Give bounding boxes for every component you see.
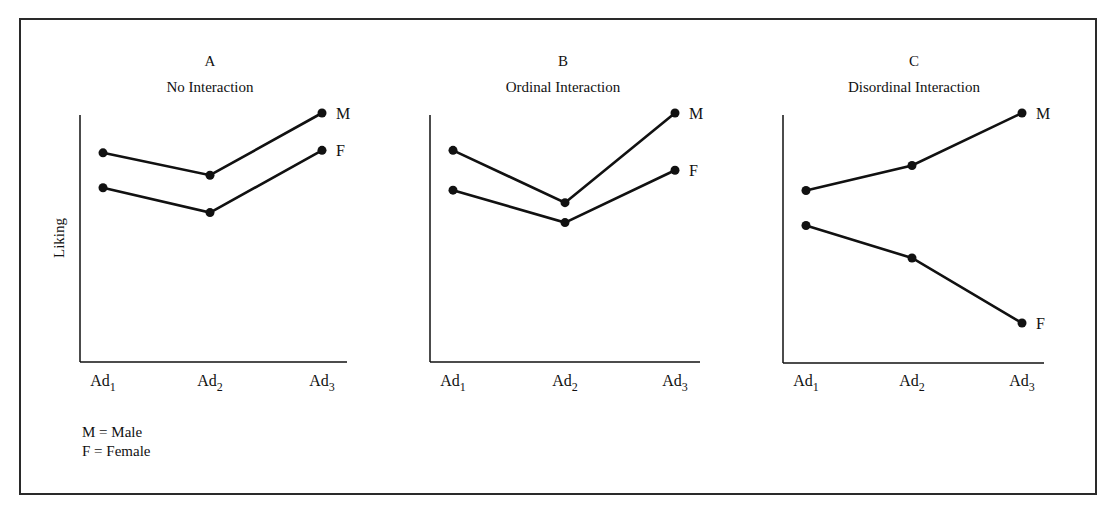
panel-b-series-m-label: M <box>689 105 703 122</box>
panel-c-series-m-label: M <box>1036 105 1050 122</box>
panel-b-series-m-line <box>453 113 675 203</box>
panel-a-x-tick-label: Ad2 <box>197 372 223 394</box>
panel-a-series-f-point <box>206 208 215 217</box>
legend-entry-male: M = Male <box>82 423 150 442</box>
panel-a-series-m-point <box>99 148 108 157</box>
panel-b-series-f-point <box>671 166 680 175</box>
panel-b-letter: B <box>558 53 568 69</box>
panel-a-series-m-point <box>318 109 327 118</box>
legend: M = Male F = Female <box>82 423 150 461</box>
panel-c-series-f-point <box>802 221 811 230</box>
panel-a-x-tick-label: Ad1 <box>90 372 116 394</box>
panel-b-x-tick-label: Ad3 <box>662 372 688 394</box>
panel-c-x-tick-label: Ad1 <box>793 372 819 394</box>
legend-entry-female: F = Female <box>82 442 150 461</box>
panel-b-title: Ordinal Interaction <box>506 79 621 95</box>
panel-c-x-tick-label: Ad2 <box>899 372 925 394</box>
panel-a-series-f-point <box>99 183 108 192</box>
panel-c-series-m-point <box>1018 109 1027 118</box>
panel-a-series-m-label: M <box>336 105 350 122</box>
panel-c-series-f-line <box>806 226 1022 324</box>
interaction-charts: ANo InteractionLikingAd1Ad2Ad3MFBOrdinal… <box>0 0 1115 513</box>
panel-a-letter: A <box>205 53 216 69</box>
panel-b-series-f-point <box>449 186 458 195</box>
panel-a-series-f-point <box>318 146 327 155</box>
panel-c-series-f-point <box>1018 319 1027 328</box>
panel-b-x-tick-label: Ad2 <box>552 372 578 394</box>
panel-a-title: No Interaction <box>166 79 254 95</box>
panel-b-series-f-label: F <box>689 162 698 179</box>
panel-a-series-m-point <box>206 171 215 180</box>
panel-c-series-f-label: F <box>1036 315 1045 332</box>
panel-c-series-f-point <box>908 254 917 263</box>
panel-b-series-f-point <box>561 218 570 227</box>
panel-a-y-label: Liking <box>51 218 67 258</box>
panel-c-letter: C <box>909 53 919 69</box>
panel-a-series-m-line <box>103 113 322 175</box>
panel-a-x-tick-label: Ad3 <box>309 372 335 394</box>
panel-b-series-m-point <box>561 198 570 207</box>
panel-c-title: Disordinal Interaction <box>848 79 981 95</box>
panel-c-x-tick-label: Ad3 <box>1009 372 1035 394</box>
panel-b-series-f-line <box>453 170 675 222</box>
panel-b-series-m-point <box>671 109 680 118</box>
panel-a-series-f-label: F <box>336 142 345 159</box>
panel-c-series-m-point <box>908 161 917 170</box>
panel-c-series-m-line <box>806 113 1022 191</box>
panel-b-x-tick-label: Ad1 <box>440 372 466 394</box>
panel-b-series-m-point <box>449 146 458 155</box>
panel-c-series-m-point <box>802 186 811 195</box>
